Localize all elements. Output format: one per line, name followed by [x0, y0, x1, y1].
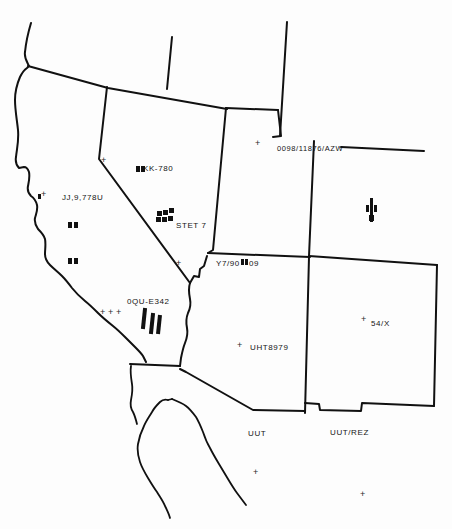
california-nevada-border: [99, 87, 190, 283]
new-mexico-south-border: [305, 403, 434, 411]
square-mark-california-d: [74, 258, 78, 264]
new-mexico-north-border: [309, 256, 437, 265]
utah-wyoming-notch: [273, 110, 281, 137]
baja-north-tip: [168, 399, 172, 400]
idaho-wyoming-border: [280, 22, 287, 136]
annotation-new-mexico-code: 54/X: [371, 320, 390, 328]
cross-marker-norcal: +: [101, 156, 106, 165]
cross-marker-sierra: +: [176, 259, 181, 268]
annotation-nevada-code: KK-780: [143, 165, 173, 173]
cross-marker-socal-b: +: [108, 308, 113, 317]
square-mark-california-b: [74, 222, 78, 228]
baja-west-coast-lower: [131, 366, 137, 424]
cross-marker-gulf-upper: +: [253, 468, 258, 477]
nevada-utah-border: [208, 108, 226, 253]
cluster-square-5: [162, 217, 167, 222]
colorado-cluster-bar-base: [369, 215, 374, 221]
oregon-idaho-border: [167, 37, 172, 89]
square-mark-utah-south-b: [245, 259, 248, 265]
annotation-utah-south-code: Y7/90: [216, 260, 240, 268]
california-oregon-border: [28, 66, 227, 109]
california-mexico-border: [130, 364, 180, 366]
cross-marker-arizona: +: [237, 341, 242, 350]
cross-marker-new-mexico: +: [361, 315, 366, 324]
arizona-mexico-border: [180, 369, 305, 411]
annotation-gulf-label: UUT: [248, 430, 266, 438]
square-mark-utah-south-a: [241, 259, 244, 265]
cross-marker-gulf-lower: +: [360, 490, 365, 499]
colorado-south-border: [341, 147, 424, 151]
cluster-square-4: [156, 217, 161, 222]
square-mark-california-c: [68, 258, 72, 264]
new-mexico-east-border: [434, 265, 437, 406]
cross-marker-socal-c: +: [116, 308, 121, 317]
cluster-square-2: [163, 210, 168, 215]
annotation-southern-california-code: 0QU-E342: [127, 298, 170, 306]
arizona-new-mexico-border: [305, 257, 309, 413]
colorado-river-segment: [180, 283, 190, 366]
cluster-square-1: [157, 211, 162, 216]
square-mark-california-a: [68, 222, 72, 228]
baja-gulf-coast: [172, 399, 246, 505]
map-canvas: KK-780 JJ,9,778U STET 7 0098/11876/AZW Y…: [0, 0, 452, 529]
annotation-arizona-code: UHT8979: [250, 344, 288, 352]
annotation-colorado-code: 0098/11876/AZW: [277, 145, 343, 153]
square-mark-nevada-a: [136, 166, 140, 172]
square-mark-nevada-b: [141, 166, 145, 172]
baja-peninsula-outline: [138, 400, 170, 518]
annotation-california-code: JJ,9,778U: [62, 194, 103, 202]
annotation-utah-south-code-suffix: 09: [249, 260, 259, 268]
utah-north-border: [226, 108, 278, 110]
annotation-gulf-rez-label: UUT/REZ: [330, 429, 369, 437]
square-mark-calwest-dot: [38, 194, 41, 199]
cross-marker-socal-a: +: [100, 308, 105, 317]
cross-marker-colorado-west: +: [255, 139, 260, 148]
colorado-cluster-bar-right: [374, 205, 377, 212]
utah-arizona-border: [208, 253, 310, 257]
cluster-square-6: [168, 216, 173, 221]
colorado-cluster-bar-left: [366, 205, 369, 212]
utah-colorado-border: [309, 141, 314, 256]
nevada-south-jog: [190, 256, 207, 283]
cross-marker-calwest: +: [41, 190, 46, 199]
annotation-stet-code: STET 7: [176, 222, 207, 230]
cluster-square-3: [169, 208, 174, 213]
